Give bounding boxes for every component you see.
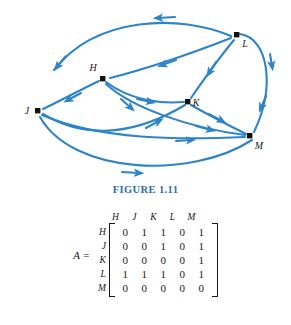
figure-caption: FIGURE 1.11: [0, 184, 291, 195]
matrix-row: 0 0 0 0 1: [116, 253, 211, 267]
edge-J-to-M-lower-head: [122, 172, 139, 173]
graph-nodes: [35, 32, 252, 138]
node-label-K: K: [192, 97, 201, 108]
matrix-cell: 0: [173, 281, 192, 295]
matrix-column-header: L: [163, 212, 182, 222]
edge-L-to-K-head: [209, 62, 216, 73]
matrix-cell: 0: [135, 253, 154, 267]
matrix-cell: 0: [116, 225, 135, 239]
matrix-cell: 0: [135, 239, 154, 253]
node-label-L: L: [241, 38, 248, 49]
matrix-row-labels: H J K L M: [92, 223, 109, 297]
matrix-cell: 1: [116, 267, 135, 281]
matrix-column-header: H: [106, 212, 125, 222]
matrix-cell: 0: [173, 267, 192, 281]
matrix-cell: 1: [154, 225, 173, 239]
matrix-column-header: K: [144, 212, 163, 222]
matrix-cell: 1: [192, 253, 211, 267]
matrix-column-header: M: [182, 212, 201, 222]
edge-L-to-J-head1: [158, 17, 175, 18]
matrix-cell: 0: [116, 281, 135, 295]
matrix-cell: 0: [135, 281, 154, 295]
matrix-row: 0 1 1 0 1: [116, 225, 211, 239]
matrix-cell: 0: [116, 253, 135, 267]
matrix-cell: 0: [173, 225, 192, 239]
node-dot-K: [185, 99, 190, 104]
figure-panel: H J K L M: [0, 0, 291, 182]
edge-J-to-K: [43, 105, 185, 131]
edge-H-to-J: [43, 81, 99, 109]
matrix-cell: 0: [173, 239, 192, 253]
node-dot-H: [100, 76, 105, 81]
edge-L-to-J: [54, 23, 231, 70]
matrix-cell: 0: [192, 281, 211, 295]
matrix-cell: 0: [116, 239, 135, 253]
graph-node-labels: H J K L M: [25, 38, 264, 151]
matrix-row-label: M: [92, 281, 109, 295]
adjacency-matrix: A = H J K L M H J K L M: [0, 212, 291, 297]
matrix-row-label: H: [92, 225, 109, 239]
matrix-cell: 1: [135, 267, 154, 281]
matrix-row: 0 0 1 0 1: [116, 239, 211, 253]
matrix-cell: 1: [154, 267, 173, 281]
directed-graph-diagram: H J K L M: [0, 0, 291, 182]
matrix-cell: 1: [192, 225, 211, 239]
matrix-cell: 0: [173, 253, 192, 267]
matrix-row: 0 0 0 0 0: [116, 281, 211, 295]
matrix-cells: 0 1 1 0 1 0 0 1 0 1 0 0: [115, 223, 212, 297]
matrix-cell: 1: [192, 239, 211, 253]
matrix-equation-label: A =: [73, 249, 92, 261]
matrix-cell: 1: [154, 239, 173, 253]
matrix-row: 1 1 1 0 1: [116, 267, 211, 281]
matrix-right-bracket: [212, 223, 218, 297]
edge-K-to-M-head: [209, 114, 222, 121]
matrix-cell: 0: [154, 281, 173, 295]
matrix-column-header: J: [125, 212, 144, 222]
edge-L-to-M-head1: [270, 54, 272, 66]
node-dot-J: [35, 108, 40, 113]
matrix-column-headers: H J K L M: [106, 212, 218, 222]
node-label-M: M: [254, 140, 264, 151]
matrix-row-label: K: [92, 253, 109, 267]
node-dot-M: [247, 133, 252, 138]
matrix-cell: 1: [192, 267, 211, 281]
matrix-row-label: J: [92, 239, 109, 253]
edge-L-to-H: [110, 38, 231, 78]
matrix-cell: 1: [135, 225, 154, 239]
matrix-row-label: L: [92, 267, 109, 281]
matrix-cell: 0: [154, 253, 173, 267]
edge-L-to-J-head2: [57, 56, 66, 67]
node-label-J: J: [25, 105, 30, 116]
edge-J-to-M-head: [176, 140, 191, 141]
node-label-H: H: [88, 62, 97, 73]
node-dot-L: [234, 32, 239, 37]
